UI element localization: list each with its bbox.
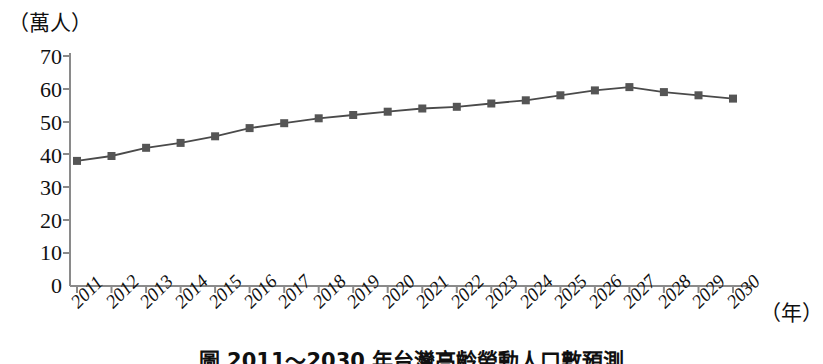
y-axis-ticks: [63, 56, 70, 253]
data-point-marker: [591, 86, 599, 94]
data-point-marker: [453, 103, 461, 111]
data-point-marker: [695, 91, 703, 99]
data-point-marker: [142, 144, 150, 152]
data-point-marker: [660, 88, 668, 96]
data-point-marker: [211, 132, 219, 140]
data-point-marker: [246, 124, 254, 132]
data-point-marker: [556, 91, 564, 99]
data-markers: [73, 83, 737, 165]
chart-figure: （萬人） （年） 70 60 50 40 30 20 10 0 20112012…: [0, 0, 823, 364]
axes: [70, 53, 752, 286]
data-point-marker: [349, 111, 357, 119]
data-point-marker: [625, 83, 633, 91]
data-point-marker: [315, 114, 323, 122]
data-point-marker: [280, 119, 288, 127]
data-point-marker: [384, 108, 392, 116]
data-point-marker: [108, 152, 116, 160]
figure-caption: 圖 2011～2030 年台灣高齡勞動人口數預測: [0, 344, 823, 364]
data-point-marker: [729, 95, 737, 103]
data-point-marker: [418, 105, 426, 113]
data-point-marker: [487, 100, 495, 108]
data-point-marker: [73, 157, 81, 165]
data-point-marker: [522, 96, 530, 104]
data-point-marker: [177, 139, 185, 147]
data-line: [77, 87, 733, 161]
